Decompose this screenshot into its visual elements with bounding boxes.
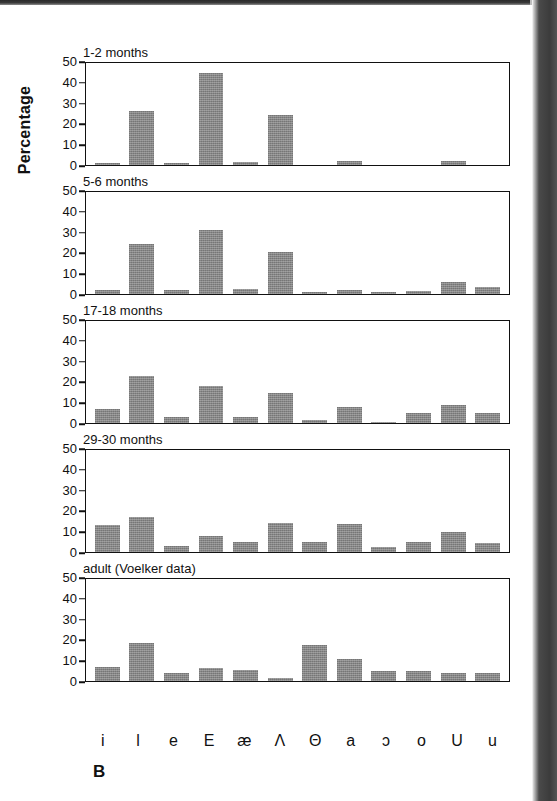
panel-plot-area: 50403020100: [55, 191, 510, 295]
bar-slot: [367, 63, 402, 165]
bar-slot: [159, 63, 194, 165]
plot-frame: [85, 191, 510, 295]
y-tick-label: 40: [63, 336, 77, 346]
bar: [268, 252, 293, 294]
bar-slot: [159, 579, 194, 681]
y-tick-label: 40: [63, 594, 77, 604]
bar: [406, 291, 431, 294]
y-axis-ticks: 50403020100: [55, 191, 77, 295]
bar-slot: [297, 192, 332, 294]
bar-slot: [401, 63, 436, 165]
bar: [475, 287, 500, 294]
y-tick-label: 30: [63, 357, 77, 367]
bar: [441, 673, 466, 681]
panel-stack: 1-2 months504030201005-6 months504030201…: [55, 45, 510, 690]
bar: [441, 532, 466, 552]
bar-slot: [263, 450, 298, 552]
bar-slot: [228, 450, 263, 552]
y-tick-label: 20: [63, 248, 77, 258]
bar-slot: [194, 579, 229, 681]
y-axis-ticks: 50403020100: [55, 62, 77, 166]
bar: [233, 670, 258, 681]
bar-slot: [401, 192, 436, 294]
bar-slot: [401, 450, 436, 552]
bar: [371, 422, 396, 423]
bar: [337, 161, 362, 165]
figure-container: Percentage 1-2 months504030201005-6 mont…: [0, 5, 532, 801]
y-tick-label: 40: [63, 207, 77, 217]
bar: [475, 673, 500, 681]
bar: [406, 671, 431, 681]
bar: [129, 517, 154, 552]
bar: [164, 163, 189, 165]
bar: [302, 292, 327, 294]
y-tick-label: 50: [63, 186, 77, 196]
bar-slot: [228, 63, 263, 165]
scan-edge-right: [532, 0, 557, 801]
panel-title: 29-30 months: [83, 432, 510, 447]
bar-slot: [159, 450, 194, 552]
bar-slot: [263, 192, 298, 294]
bar: [233, 162, 258, 165]
bar-slot: [125, 63, 160, 165]
bar: [199, 386, 224, 423]
bar-slot: [332, 450, 367, 552]
panel-plot-area: 50403020100: [55, 449, 510, 553]
y-tick-label: 50: [63, 444, 77, 454]
bar-slot: [367, 192, 402, 294]
bar-slot: [436, 192, 471, 294]
y-tick-label: 40: [63, 465, 77, 475]
panel-title: 17-18 months: [83, 303, 510, 318]
bar: [233, 417, 258, 423]
bar-slot: [401, 579, 436, 681]
bar-slot: [470, 192, 505, 294]
bar-slot: [332, 321, 367, 423]
plot-frame: [85, 449, 510, 553]
bar: [371, 671, 396, 681]
y-tick-label: 30: [63, 615, 77, 625]
bar: [129, 643, 154, 681]
bar: [441, 161, 466, 165]
y-tick-label: 50: [63, 57, 77, 67]
bar: [233, 542, 258, 552]
bar-slot: [90, 579, 125, 681]
bar: [199, 230, 224, 294]
bar-slot: [297, 450, 332, 552]
x-tick-label: U: [439, 731, 474, 753]
bar-slot: [228, 579, 263, 681]
bar: [441, 282, 466, 294]
bar: [337, 290, 362, 294]
y-axis-ticks: 50403020100: [55, 578, 77, 682]
bar: [406, 542, 431, 552]
bar: [95, 290, 120, 294]
y-tick-label: 20: [63, 635, 77, 645]
bar: [268, 678, 293, 681]
bar: [337, 407, 362, 423]
bar-slot: [263, 579, 298, 681]
panel-title: 5-6 months: [83, 174, 510, 189]
bar-slot: [90, 192, 125, 294]
bar: [371, 547, 396, 552]
bar-slot: [436, 63, 471, 165]
bar: [268, 115, 293, 166]
bar-slot: [228, 321, 263, 423]
bar-slot: [470, 579, 505, 681]
chart-panel: adult (Voelker data)50403020100: [55, 561, 510, 682]
y-tick-label: 30: [63, 99, 77, 109]
bar-slot: [194, 63, 229, 165]
bar: [129, 376, 154, 423]
panel-title: adult (Voelker data): [83, 561, 510, 576]
bar-slot: [194, 450, 229, 552]
bar-slot: [332, 579, 367, 681]
bar: [302, 420, 327, 423]
bar-slot: [90, 63, 125, 165]
bar: [233, 289, 258, 294]
y-tick-label: 20: [63, 506, 77, 516]
bar-slot: [332, 63, 367, 165]
bars-container: [90, 192, 505, 294]
bar-slot: [401, 321, 436, 423]
bar: [95, 525, 120, 552]
bar: [371, 292, 396, 294]
bar-slot: [125, 579, 160, 681]
bar-slot: [367, 321, 402, 423]
